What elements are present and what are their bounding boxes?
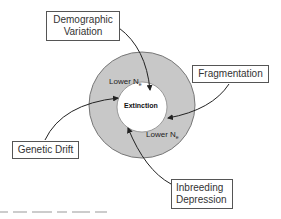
faint-caption	[0, 211, 140, 215]
factor-label-line2: Depression	[172, 194, 227, 206]
ring-label-bottom: Lower Ne	[146, 130, 179, 140]
ring-label-top: Lower Ne	[109, 77, 142, 87]
factor-label-line2: Variation	[64, 26, 103, 38]
factor-fragmentation: Fragmentation	[192, 65, 269, 83]
factor-label: Fragmentation	[198, 68, 262, 80]
center-label: Extinction	[124, 102, 158, 109]
factor-label: Genetic Drift	[18, 144, 74, 156]
ring-label-subscript: e	[139, 81, 142, 87]
ring-label-text: Lower N	[109, 77, 139, 86]
ring-label-subscript: e	[176, 134, 179, 140]
factor-genetic-drift: Genetic Drift	[12, 141, 79, 159]
vortex-diagram	[0, 0, 281, 219]
factor-label-line1: Demographic	[53, 14, 112, 26]
ring-label-text: Lower N	[146, 130, 176, 139]
factor-demographic-variation: Demographic Variation	[46, 11, 120, 41]
factor-inbreeding-depression: Inbreeding Depression	[171, 179, 233, 209]
factor-label-line1: Inbreeding	[172, 182, 223, 194]
